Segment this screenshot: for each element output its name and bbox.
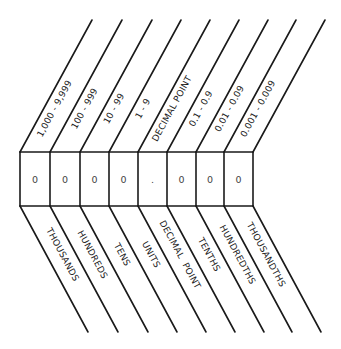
range-label: 1 - 9 bbox=[133, 97, 152, 121]
digit-cell: 0 bbox=[235, 174, 241, 185]
upper-diagonal-line bbox=[20, 20, 92, 152]
digit-cell: 0 bbox=[32, 174, 38, 185]
digit-cells: 0000.000 bbox=[32, 174, 242, 185]
place-value-diagram: 0000.000 1,000 - 9,999100 - 99910 - 991 … bbox=[0, 0, 341, 349]
upper-diagonal-line bbox=[196, 20, 268, 152]
range-label: DECIMAL POINT bbox=[150, 74, 194, 143]
upper-diagonal-line bbox=[109, 20, 181, 152]
digit-cell: 0 bbox=[178, 174, 184, 185]
upper-diagonal-line bbox=[80, 20, 152, 152]
lower-diagonal-line bbox=[253, 206, 321, 332]
digit-cell: 0 bbox=[120, 174, 126, 185]
digit-cell: 0 bbox=[62, 174, 68, 185]
digit-cell: 0 bbox=[91, 174, 97, 185]
range-labels: 1,000 - 9,999100 - 99910 - 991 - 9DECIMA… bbox=[35, 74, 278, 143]
upper-diagonal-line bbox=[224, 20, 296, 152]
range-label: 0.001 - 0.009 bbox=[238, 78, 277, 138]
lower-diagonal-line bbox=[138, 206, 206, 332]
lower-diagonal-line bbox=[20, 206, 88, 332]
lower-diagonal-line bbox=[80, 206, 148, 332]
digit-cell: . bbox=[151, 174, 154, 185]
range-label: 10 - 99 bbox=[102, 92, 127, 126]
lower-diagonal-line bbox=[50, 206, 118, 332]
lower-diagonal-line bbox=[224, 206, 292, 332]
digit-cell: 0 bbox=[207, 174, 213, 185]
upper-diagonal-line bbox=[138, 20, 210, 152]
place-label: HUNDREDS bbox=[76, 229, 110, 281]
